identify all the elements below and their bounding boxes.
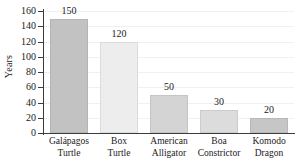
y-tick-label: 160 — [0, 6, 36, 16]
bar — [150, 95, 188, 133]
x-category-label-line: Komodo — [238, 136, 298, 148]
bar-value-label: 50 — [144, 82, 194, 92]
bar-chart: Years 020406080100120140160150GalápagosT… — [0, 0, 298, 161]
bar — [250, 118, 288, 133]
bar-value-label: 120 — [94, 29, 144, 39]
bar-value-label: 20 — [244, 105, 294, 115]
x-axis-line — [43, 133, 295, 134]
y-tick-mark — [38, 57, 43, 58]
bar — [100, 42, 138, 134]
y-tick-label: 60 — [0, 82, 36, 92]
bar — [200, 110, 238, 133]
y-tick-mark — [38, 118, 43, 119]
y-tick-label: 140 — [0, 21, 36, 31]
y-tick-mark — [38, 26, 43, 27]
y-tick-mark — [38, 103, 43, 104]
y-tick-mark — [38, 42, 43, 43]
bar-value-label: 30 — [194, 97, 244, 107]
y-tick-label: 100 — [0, 52, 36, 62]
y-tick-label: 40 — [0, 98, 36, 108]
y-tick-label: 0 — [0, 128, 36, 138]
bar — [50, 19, 88, 133]
x-category-label: KomodoDragon — [238, 136, 298, 159]
y-axis-line — [43, 9, 44, 135]
y-tick-label: 80 — [0, 67, 36, 77]
x-category-label-line: Dragon — [238, 148, 298, 160]
y-tick-mark — [38, 11, 43, 12]
y-tick-mark — [38, 87, 43, 88]
y-tick-label: 120 — [0, 37, 36, 47]
y-tick-label: 20 — [0, 113, 36, 123]
bar-value-label: 150 — [44, 6, 94, 16]
y-tick-mark — [38, 72, 43, 73]
y-tick-mark — [38, 133, 43, 134]
